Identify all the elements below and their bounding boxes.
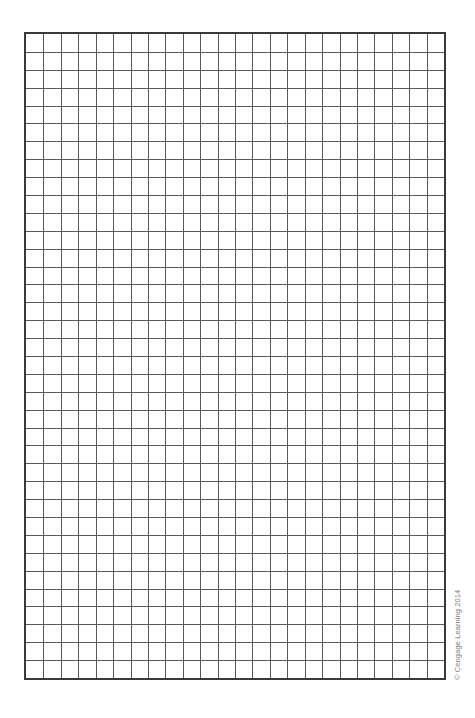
grid-lines	[26, 34, 444, 678]
copyright-notice: © Cengage Learning 2014	[454, 590, 462, 680]
graph-paper-grid	[24, 32, 446, 680]
